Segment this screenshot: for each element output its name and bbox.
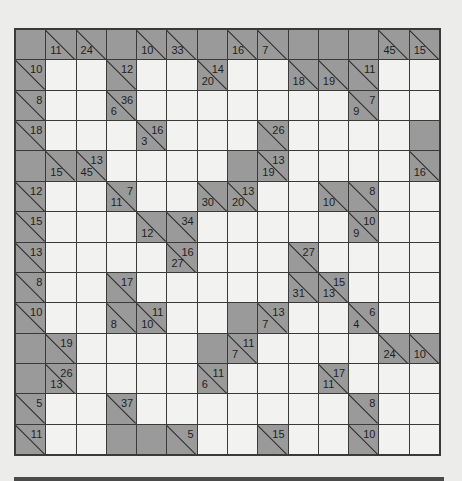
entry-cell[interactable] bbox=[319, 243, 348, 272]
entry-cell[interactable] bbox=[289, 91, 318, 120]
entry-cell[interactable] bbox=[319, 121, 348, 150]
entry-cell[interactable] bbox=[137, 334, 166, 363]
entry-cell[interactable] bbox=[258, 182, 287, 211]
entry-cell[interactable] bbox=[107, 121, 136, 150]
entry-cell[interactable] bbox=[379, 273, 408, 302]
entry-cell[interactable] bbox=[46, 212, 75, 241]
entry-cell[interactable] bbox=[289, 334, 318, 363]
entry-cell[interactable] bbox=[46, 273, 75, 302]
entry-cell[interactable] bbox=[379, 212, 408, 241]
entry-cell[interactable] bbox=[379, 121, 408, 150]
entry-cell[interactable] bbox=[167, 334, 196, 363]
entry-cell[interactable] bbox=[198, 121, 227, 150]
entry-cell[interactable] bbox=[228, 212, 257, 241]
entry-cell[interactable] bbox=[410, 60, 439, 89]
entry-cell[interactable] bbox=[289, 394, 318, 423]
entry-cell[interactable] bbox=[107, 364, 136, 393]
entry-cell[interactable] bbox=[258, 273, 287, 302]
entry-cell[interactable] bbox=[167, 91, 196, 120]
entry-cell[interactable] bbox=[349, 243, 378, 272]
entry-cell[interactable] bbox=[258, 243, 287, 272]
entry-cell[interactable] bbox=[46, 394, 75, 423]
entry-cell[interactable] bbox=[77, 273, 106, 302]
entry-cell[interactable] bbox=[77, 425, 106, 454]
entry-cell[interactable] bbox=[319, 212, 348, 241]
entry-cell[interactable] bbox=[77, 121, 106, 150]
entry-cell[interactable] bbox=[167, 303, 196, 332]
entry-cell[interactable] bbox=[46, 303, 75, 332]
entry-cell[interactable] bbox=[198, 303, 227, 332]
entry-cell[interactable] bbox=[379, 151, 408, 180]
entry-cell[interactable] bbox=[167, 364, 196, 393]
entry-cell[interactable] bbox=[107, 151, 136, 180]
entry-cell[interactable] bbox=[77, 60, 106, 89]
entry-cell[interactable] bbox=[77, 91, 106, 120]
entry-cell[interactable] bbox=[349, 151, 378, 180]
entry-cell[interactable] bbox=[379, 91, 408, 120]
entry-cell[interactable] bbox=[46, 60, 75, 89]
entry-cell[interactable] bbox=[198, 243, 227, 272]
entry-cell[interactable] bbox=[107, 212, 136, 241]
entry-cell[interactable] bbox=[410, 182, 439, 211]
entry-cell[interactable] bbox=[77, 364, 106, 393]
entry-cell[interactable] bbox=[319, 334, 348, 363]
entry-cell[interactable] bbox=[379, 425, 408, 454]
entry-cell[interactable] bbox=[198, 91, 227, 120]
entry-cell[interactable] bbox=[379, 60, 408, 89]
entry-cell[interactable] bbox=[349, 273, 378, 302]
entry-cell[interactable] bbox=[167, 273, 196, 302]
entry-cell[interactable] bbox=[198, 273, 227, 302]
entry-cell[interactable] bbox=[137, 60, 166, 89]
entry-cell[interactable] bbox=[137, 364, 166, 393]
entry-cell[interactable] bbox=[258, 364, 287, 393]
entry-cell[interactable] bbox=[289, 364, 318, 393]
entry-cell[interactable] bbox=[410, 273, 439, 302]
entry-cell[interactable] bbox=[137, 182, 166, 211]
entry-cell[interactable] bbox=[349, 121, 378, 150]
entry-cell[interactable] bbox=[410, 91, 439, 120]
entry-cell[interactable] bbox=[198, 394, 227, 423]
entry-cell[interactable] bbox=[137, 243, 166, 272]
entry-cell[interactable] bbox=[410, 425, 439, 454]
entry-cell[interactable] bbox=[77, 394, 106, 423]
entry-cell[interactable] bbox=[228, 394, 257, 423]
entry-cell[interactable] bbox=[77, 182, 106, 211]
entry-cell[interactable] bbox=[319, 394, 348, 423]
entry-cell[interactable] bbox=[289, 425, 318, 454]
entry-cell[interactable] bbox=[379, 182, 408, 211]
entry-cell[interactable] bbox=[258, 334, 287, 363]
entry-cell[interactable] bbox=[198, 425, 227, 454]
entry-cell[interactable] bbox=[410, 243, 439, 272]
entry-cell[interactable] bbox=[228, 364, 257, 393]
entry-cell[interactable] bbox=[137, 151, 166, 180]
entry-cell[interactable] bbox=[289, 212, 318, 241]
entry-cell[interactable] bbox=[46, 91, 75, 120]
entry-cell[interactable] bbox=[289, 182, 318, 211]
entry-cell[interactable] bbox=[167, 60, 196, 89]
entry-cell[interactable] bbox=[228, 91, 257, 120]
entry-cell[interactable] bbox=[379, 243, 408, 272]
entry-cell[interactable] bbox=[77, 334, 106, 363]
entry-cell[interactable] bbox=[410, 303, 439, 332]
entry-cell[interactable] bbox=[137, 91, 166, 120]
entry-cell[interactable] bbox=[228, 243, 257, 272]
entry-cell[interactable] bbox=[228, 425, 257, 454]
entry-cell[interactable] bbox=[167, 121, 196, 150]
entry-cell[interactable] bbox=[137, 394, 166, 423]
entry-cell[interactable] bbox=[228, 273, 257, 302]
entry-cell[interactable] bbox=[258, 394, 287, 423]
entry-cell[interactable] bbox=[46, 243, 75, 272]
entry-cell[interactable] bbox=[46, 121, 75, 150]
entry-cell[interactable] bbox=[198, 212, 227, 241]
entry-cell[interactable] bbox=[137, 273, 166, 302]
entry-cell[interactable] bbox=[107, 243, 136, 272]
entry-cell[interactable] bbox=[349, 334, 378, 363]
entry-cell[interactable] bbox=[410, 394, 439, 423]
entry-cell[interactable] bbox=[379, 303, 408, 332]
entry-cell[interactable] bbox=[228, 121, 257, 150]
entry-cell[interactable] bbox=[258, 212, 287, 241]
entry-cell[interactable] bbox=[77, 303, 106, 332]
entry-cell[interactable] bbox=[228, 60, 257, 89]
entry-cell[interactable] bbox=[77, 243, 106, 272]
entry-cell[interactable] bbox=[379, 364, 408, 393]
